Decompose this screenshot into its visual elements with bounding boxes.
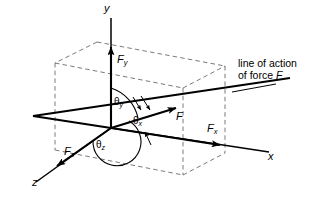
y-axis-label: y (104, 2, 110, 15)
angle-theta-z-label: θz (96, 139, 105, 151)
box-edge-top-right (183, 66, 225, 88)
callout-line-1: line of action (238, 57, 297, 69)
fy-subscript: y (124, 58, 128, 67)
callout-force-symbol: F (276, 69, 282, 81)
x-axis-label: x (268, 150, 274, 163)
diagram-canvas (0, 0, 317, 200)
force-vector-F (111, 108, 176, 128)
box-edge-top-front (55, 63, 183, 88)
theta-x-subscript: x (139, 120, 143, 127)
force-vector-diagram: y x z Fy Fx Fz F θy θx θz line of action… (0, 0, 317, 200)
angle-theta-x-label: θx (133, 115, 142, 127)
fx-subscript: x (214, 127, 218, 136)
fz-symbol: F (64, 145, 71, 157)
force-component-fy-label: Fy (117, 53, 127, 66)
theta-x-symbol: θ (133, 115, 139, 126)
force-component-fx-label: Fx (207, 122, 217, 135)
force-vector-Fx (111, 128, 220, 145)
force-component-fz-label: Fz (64, 145, 74, 158)
box-edge-bot-front-right (183, 153, 225, 175)
theta-z-subscript: z (102, 144, 106, 151)
angle-theta-y-label: θy (114, 96, 123, 108)
force-vector-Fx-arrow (111, 128, 220, 145)
box-edge-top-left (55, 42, 97, 63)
force-vector-F-label: F (176, 110, 183, 123)
theta-z-symbol: θ (96, 139, 102, 150)
theta-y-subscript: y (120, 101, 124, 108)
callout-line-2: of force F (238, 69, 297, 81)
fz-subscript: z (71, 150, 75, 159)
force-vector-F-arrow (111, 108, 176, 128)
x-axis-negative (33, 116, 111, 128)
callout-line-2-text: of force (238, 69, 276, 81)
fy-symbol: F (117, 53, 124, 65)
z-axis-label: z (32, 176, 38, 189)
theta-y-symbol: θ (114, 96, 120, 107)
fx-symbol: F (207, 122, 214, 134)
line-of-action-callout: line of action of force F (238, 57, 297, 81)
